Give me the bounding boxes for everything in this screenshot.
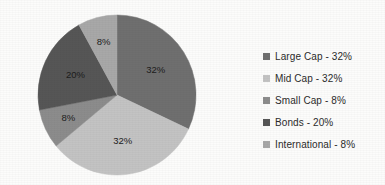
pie-plot-area: 32%32%8%20%8% <box>37 14 197 176</box>
legend-item[interactable]: Large Cap - 32% <box>263 46 383 67</box>
legend-swatch-icon <box>263 75 270 82</box>
legend-item-label: Bonds - 20% <box>275 117 333 128</box>
chart-legend: Large Cap - 32%Mid Cap - 32%Small Cap - … <box>263 46 383 156</box>
pie-slice-data-label: 32% <box>113 135 133 146</box>
legend-item[interactable]: Mid Cap - 32% <box>263 68 383 89</box>
pie-chart-figure: 32%32%8%20%8% Large Cap - 32%Mid Cap - 3… <box>0 0 385 185</box>
legend-swatch-icon <box>263 53 270 60</box>
legend-item-label: Mid Cap - 32% <box>275 73 342 84</box>
pie-slice-data-label: 32% <box>146 64 166 75</box>
pie-slice-data-label: 8% <box>97 36 111 47</box>
legend-swatch-icon <box>263 141 270 148</box>
pie-slice-data-label: 8% <box>62 112 76 123</box>
legend-item-label: Small Cap - 8% <box>275 95 346 106</box>
legend-item-label: International - 8% <box>275 139 355 150</box>
legend-swatch-icon <box>263 119 270 126</box>
legend-item-label: Large Cap - 32% <box>275 51 352 62</box>
pie-slices-group <box>38 15 196 175</box>
legend-item[interactable]: Bonds - 20% <box>263 112 383 133</box>
legend-item[interactable]: International - 8% <box>263 134 383 155</box>
legend-item[interactable]: Small Cap - 8% <box>263 90 383 111</box>
legend-swatch-icon <box>263 97 270 104</box>
pie-slice-data-label: 20% <box>66 69 86 80</box>
pie-svg: 32%32%8%20%8% <box>37 14 197 176</box>
